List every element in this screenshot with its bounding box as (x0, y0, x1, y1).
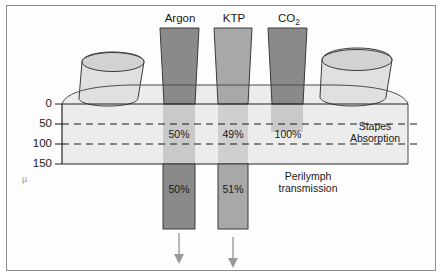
argon-arrow-head (174, 254, 184, 264)
absorption-label-argon: 50% (157, 129, 201, 141)
perilymph-annotation-line1: Perilymph (265, 171, 351, 183)
laser-label-argon: Argon (152, 12, 208, 25)
axis-tick-label-50: 50 (12, 117, 52, 130)
axis-unit-symbol: µ (22, 174, 27, 184)
axis-tick-label-150: 150 (12, 157, 52, 170)
perilymph-annotation-line2: transmission (262, 183, 354, 195)
transmission-label-ktp: 51% (211, 184, 255, 196)
absorption-label-co2: 100% (265, 129, 311, 141)
co2-beam (268, 28, 307, 104)
laser-label-co2: CO2 (261, 12, 317, 28)
absorption-label-ktp: 49% (211, 129, 255, 141)
transmission-label-argon: 50% (157, 184, 201, 196)
stapes-absorption-annotation-line2: Absorption (330, 133, 420, 145)
ktp-transmission-bar (218, 164, 248, 229)
left-stapes-crus-top (82, 53, 144, 72)
laser-label-ktp: KTP (207, 12, 261, 25)
axis-tick-label-0: 0 (12, 97, 52, 110)
laser-stapes-absorption-figure: Argon KTP CO2 0 50 100 150 µ 50% 49% 100… (0, 0, 444, 279)
argon-beam (160, 28, 199, 104)
ktp-arrow-head (228, 258, 238, 268)
right-stapes-crus-top (322, 50, 392, 71)
argon-transmission-bar (163, 164, 195, 229)
co2-subscript: 2 (295, 18, 300, 27)
co2-base: CO (278, 12, 295, 24)
axis-tick-label-100: 100 (12, 137, 52, 150)
ktp-beam (214, 28, 252, 104)
stapes-absorption-annotation-line1: Stapes (337, 121, 413, 133)
